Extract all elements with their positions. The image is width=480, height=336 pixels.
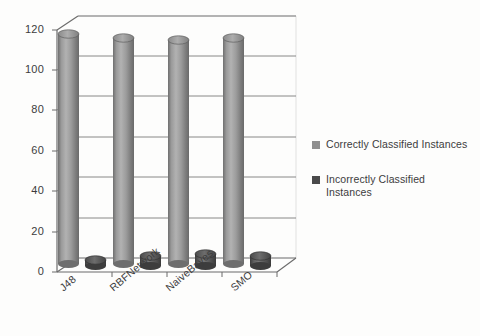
- y-tick-label-100: 100: [8, 63, 44, 75]
- legend-swatch-icon-correct: [312, 141, 320, 149]
- y-axis-ticks: [52, 30, 57, 272]
- bar-rbfnetwork-correct: [113, 34, 134, 268]
- y-tick-label-40: 40: [8, 184, 44, 196]
- bar-j48-incorrect: [85, 256, 106, 270]
- y-tick-label-60: 60: [8, 144, 44, 156]
- bar-smo-incorrect: [250, 252, 271, 270]
- y-tick-label-120: 120: [8, 23, 44, 35]
- legend-swatch-icon-incorrect: [312, 176, 320, 184]
- y-tick-label-20: 20: [8, 225, 44, 237]
- y-tick-label-80: 80: [8, 103, 44, 115]
- y-tick-label-0: 0: [8, 265, 44, 277]
- bar-chart: 120 100 80 60 40 20 0 J48 RBFNetwork Nai…: [0, 0, 480, 336]
- legend-label-incorrect-line2: Instances: [326, 186, 372, 198]
- bar-j48-correct: [58, 30, 79, 268]
- legend-item-correctly-classified: Correctly Classified Instances: [312, 138, 478, 151]
- chart-legend: Correctly Classified Instances Incorrect…: [312, 138, 478, 221]
- legend-item-incorrectly-classified: Incorrectly ClassifiedInstances: [312, 173, 478, 199]
- legend-label-incorrect-line1: Incorrectly Classified: [326, 173, 425, 185]
- legend-label-correct: Correctly Classified Instances: [326, 138, 467, 151]
- legend-label-incorrect: Incorrectly ClassifiedInstances: [326, 173, 438, 199]
- bar-naivebayes-correct: [168, 36, 189, 268]
- bar-smo-correct: [223, 34, 244, 268]
